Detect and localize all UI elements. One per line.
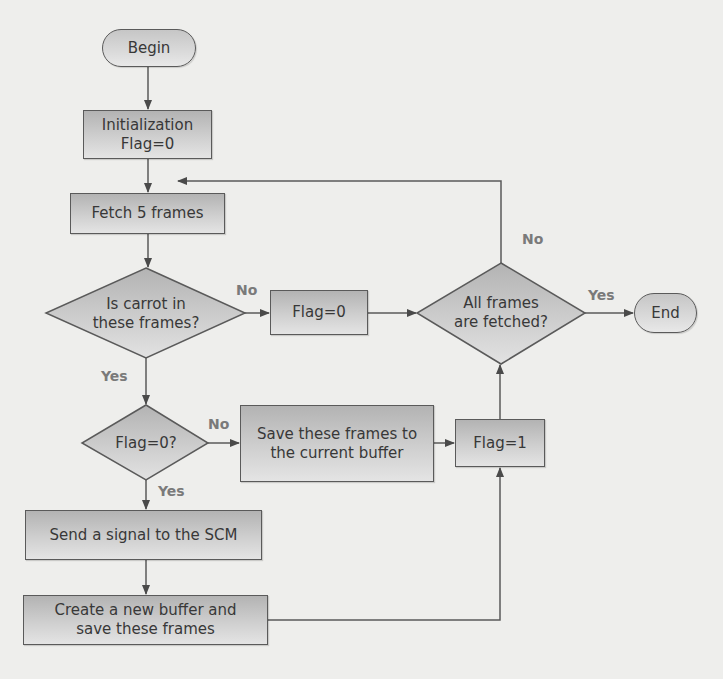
edge-label-allfetched-no: No — [522, 231, 543, 247]
init-line2: Flag=0 — [121, 135, 175, 154]
fetch-label: Fetch 5 frames — [91, 204, 203, 223]
fetch-node: Fetch 5 frames — [70, 193, 225, 234]
end-node: End — [634, 293, 697, 333]
create-buffer-line2: save these frames — [76, 620, 215, 639]
flowchart-canvas: Begin End Initialization Flag=0 Fetch 5 … — [0, 0, 723, 679]
edge-label-carrot-yes: Yes — [101, 368, 128, 384]
end-label: End — [651, 304, 680, 323]
flag1-set-node: Flag=1 — [455, 419, 545, 467]
allfetched-line2: are fetched? — [454, 313, 548, 332]
edge-label-allfetched-yes: Yes — [588, 287, 615, 303]
flag0-decision-label: Flag=0? — [115, 434, 177, 453]
flag0-set-label: Flag=0 — [292, 303, 346, 322]
carrot-line2: these frames? — [93, 314, 200, 333]
begin-node: Begin — [102, 29, 196, 67]
edge-label-flag0-yes: Yes — [158, 483, 185, 499]
allfetched-line1: All frames — [463, 294, 539, 313]
init-line1: Initialization — [102, 116, 193, 135]
edge-label-flag0-no: No — [208, 416, 229, 432]
save-current-line1: Save these frames to — [257, 425, 417, 444]
send-signal-label: Send a signal to the SCM — [50, 526, 238, 545]
flag0-decision-text: Flag=0? — [96, 432, 196, 454]
edge-label-carrot-no: No — [236, 282, 257, 298]
connectors — [0, 0, 723, 679]
flag1-set-label: Flag=1 — [473, 434, 527, 453]
flag0-set-node: Flag=0 — [270, 290, 368, 335]
save-current-line2: the current buffer — [270, 444, 403, 463]
allfetched-decision-text: All frames are fetched? — [431, 292, 571, 334]
carrot-decision-text: Is carrot in these frames? — [66, 293, 226, 335]
create-buffer-node: Create a new buffer and save these frame… — [23, 595, 268, 645]
edge-allfetched-no-loop — [178, 181, 501, 263]
save-current-node: Save these frames to the current buffer — [240, 405, 434, 482]
carrot-line1: Is carrot in — [106, 295, 186, 314]
begin-label: Begin — [128, 39, 171, 58]
edge-create-flag1 — [268, 468, 500, 620]
create-buffer-line1: Create a new buffer and — [54, 601, 236, 620]
init-node: Initialization Flag=0 — [83, 110, 212, 159]
send-signal-node: Send a signal to the SCM — [25, 510, 262, 560]
